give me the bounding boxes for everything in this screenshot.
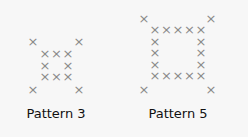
border-x-icon: × [161, 70, 173, 82]
border-x-icon: × [161, 24, 173, 36]
border-x-icon: × [184, 70, 196, 82]
corner-x-icon: × [73, 36, 85, 48]
border-x-icon: × [51, 48, 63, 60]
border-x-icon: × [172, 70, 184, 82]
border-x-icon: × [172, 24, 184, 36]
border-x-icon: × [184, 24, 196, 36]
corner-x-icon: × [27, 36, 39, 48]
border-x-icon: × [62, 71, 74, 83]
border-x-icon: × [39, 71, 51, 83]
corner-x-icon: × [27, 84, 39, 96]
pattern-label: Pattern 3 [26, 106, 85, 121]
corner-x-icon: × [73, 84, 85, 96]
border-x-icon: × [195, 70, 207, 82]
corner-x-icon: × [138, 84, 150, 96]
border-x-icon: × [51, 71, 63, 83]
border-x-icon: × [149, 70, 161, 82]
corner-x-icon: × [205, 84, 217, 96]
pattern-label: Pattern 5 [148, 106, 207, 121]
